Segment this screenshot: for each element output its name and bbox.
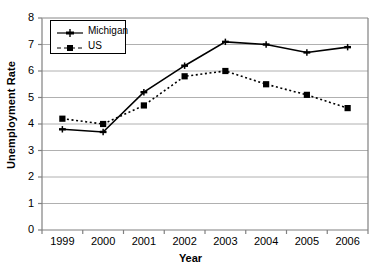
data-point-us-2002: [182, 73, 188, 79]
legend-label-us: US: [85, 40, 102, 51]
data-point-us-1999: [59, 116, 65, 122]
data-point-us-2000: [100, 121, 106, 127]
data-point-us-2004: [263, 81, 269, 87]
x-tick-label: 2001: [124, 236, 164, 247]
series-line-michigan: [62, 42, 347, 132]
data-point-us-2005: [304, 92, 310, 98]
x-tick-label: 2006: [328, 236, 368, 247]
legend-item-us: US: [51, 38, 125, 53]
unemployment-rate-line-chart: Unemployment Rate 012345678 199920002001…: [0, 0, 381, 274]
legend-label-michigan: Michigan: [85, 25, 128, 36]
x-tick-label: 2002: [165, 236, 205, 247]
data-point-michigan-2005: [303, 49, 310, 55]
data-point-us-2003: [222, 68, 228, 74]
x-tick-label: 2004: [246, 236, 286, 247]
chart-legend: Michigan US: [50, 20, 126, 54]
legend-solid-line-plus-marker-icon: [55, 25, 85, 37]
data-point-michigan-1999: [59, 126, 66, 132]
legend-dashed-line-square-marker-icon: [55, 40, 85, 52]
x-tick-label: 2000: [83, 236, 123, 247]
x-tick-label: 2003: [205, 236, 245, 247]
x-tick-label: 1999: [42, 236, 82, 247]
legend-item-michigan: Michigan: [51, 23, 125, 38]
data-point-michigan-2004: [263, 41, 270, 47]
x-tick-label: 2005: [287, 236, 327, 247]
data-point-us-2006: [345, 105, 351, 111]
data-point-us-2001: [141, 102, 147, 108]
x-axis-title: Year: [0, 252, 381, 264]
